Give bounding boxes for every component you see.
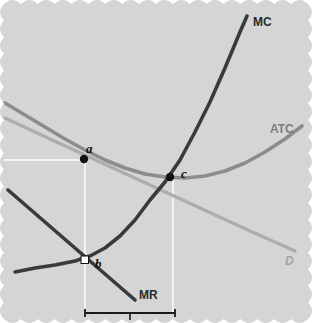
- atc-curve-label: ATC: [270, 122, 294, 136]
- point-a-marker: [80, 155, 88, 163]
- point-a-label: a: [86, 141, 93, 156]
- demand-curve-label: D: [285, 254, 294, 268]
- mr-curve-label: MR: [139, 288, 158, 302]
- point-b-marker: [81, 256, 89, 264]
- chart-canvas: MC ATC D MR a b c: [0, 0, 312, 323]
- point-b-label: b: [95, 256, 102, 271]
- mc-curve-label: MC: [253, 15, 272, 29]
- point-c-label: c: [181, 166, 187, 181]
- economics-diagram-figure: MC ATC D MR a b c: [0, 0, 312, 323]
- paper-background: [0, 0, 312, 323]
- point-c-marker: [166, 173, 174, 181]
